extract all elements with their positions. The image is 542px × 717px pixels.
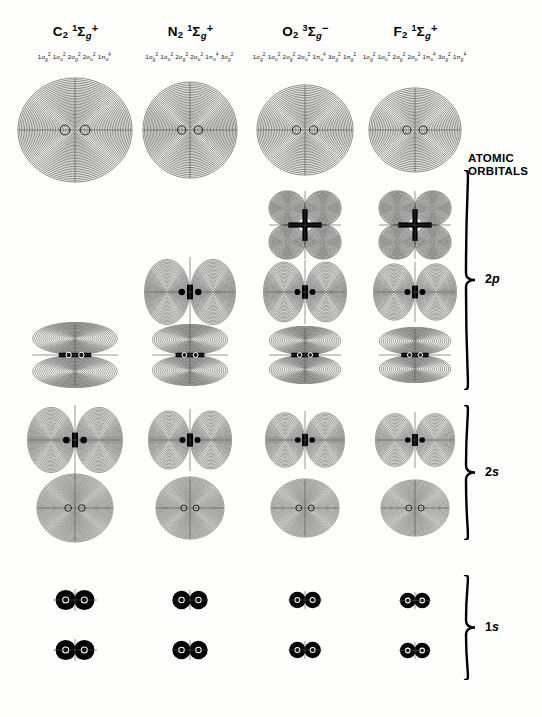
orbital-diagram-f2-row8 (399, 642, 431, 659)
term-symbol-c2: 1Σg+ (72, 24, 98, 39)
orbital-diagram-c2-row7 (53, 589, 97, 611)
orbital-diagram-o2-row5 (265, 409, 345, 471)
orbital-diagram-o2-row6 (269, 477, 341, 539)
term-sigma: Σ (77, 24, 85, 39)
element-symbol: N (168, 24, 178, 39)
config-orbital: 2σg2 (68, 53, 81, 60)
orbital-diagram-f2-row6 (379, 478, 451, 538)
brace-label-1s: 1s (485, 620, 499, 634)
orbital-diagram-n2-row7 (172, 590, 208, 610)
orbital-diagram-grid (0, 85, 460, 705)
orbital-diagram-f2-row5 (375, 410, 455, 470)
orbital-diagram-n2-row5 (148, 407, 232, 473)
species-label-c2: C21Σg+ (18, 22, 133, 41)
config-orbital: 3σg2 (438, 53, 451, 60)
config-orbital: 2σu2 (408, 53, 421, 60)
brace-1s (462, 575, 478, 680)
orbital-diagram-c2-row1 (16, 76, 134, 184)
orbital-diagram-f2-row3 (373, 260, 457, 324)
element-symbol: C (53, 24, 63, 39)
term-sigma: Σ (192, 24, 200, 39)
orbital-diagram-n2-row4 (150, 324, 230, 386)
atom-count: 2 (63, 29, 68, 40)
term-symbol-n2: 1Σg+ (187, 24, 213, 39)
config-orbital: 1πu4 (98, 53, 111, 60)
brace-2s (462, 405, 478, 540)
atom-count: 2 (402, 29, 407, 40)
term-sigma: Σ (417, 24, 425, 39)
term-sigma: Σ (308, 24, 316, 39)
orbital-diagram-c2-row5 (27, 403, 123, 477)
electron-configuration-f2: 1σg21σu22σg22σu21πu43σg21πg4 (358, 52, 473, 62)
term-symbol-o2: 3Σg− (303, 24, 329, 39)
term-symbol-f2: 1Σg+ (411, 24, 437, 39)
side-annotations: ATOMIC ORBITALS 2p2s1s (460, 0, 542, 717)
orbital-diagram-o2-row7 (288, 591, 322, 609)
orbital-diagram-c2-row8 (53, 639, 97, 661)
config-orbital: 1σu2 (160, 53, 173, 60)
orbital-diagram-o2-row2 (267, 189, 343, 261)
config-orbital: 1πg2 (343, 53, 356, 60)
term-reflection-sign: − (322, 22, 329, 34)
orbital-diagram-c2-row6 (35, 472, 115, 544)
figure-sheet: C21Σg+1σg21σu22σg22σu21πu4N21Σg+1σg21σu2… (0, 0, 542, 717)
column-header-o2: O23Σg−1σg21σu22σg22σu21πu43σg21πg2 (248, 22, 363, 62)
atomic-orbitals-line1: ATOMIC (468, 152, 542, 165)
electron-configuration-o2: 1σg21σu22σg22σu21πu43σg21πg2 (248, 52, 363, 62)
config-orbital: 1σu2 (378, 53, 391, 60)
config-orbital: 2σg2 (393, 53, 406, 60)
term-reflection-sign: + (207, 22, 214, 34)
species-label-o2: O23Σg− (248, 22, 363, 41)
column-header-n2: N21Σg+1σg21σu22σg22σu21πu43σg2 (133, 22, 248, 62)
orbital-diagram-o2-row4 (267, 326, 343, 384)
brace-label-2s: 2s (485, 465, 499, 479)
orbital-diagram-f2-row1 (367, 86, 463, 174)
orbital-diagram-f2-row7 (399, 592, 431, 609)
orbital-diagram-c2-row4 (30, 322, 120, 388)
config-orbital: 2σu2 (83, 53, 96, 60)
config-orbital: 1σu2 (268, 53, 281, 60)
config-orbital: 1σg2 (253, 53, 266, 60)
orbital-diagram-n2-row1 (141, 80, 239, 180)
orbital-diagram-o2-row1 (255, 83, 355, 177)
electron-configuration-n2: 1σg21σu22σg22σu21πu43σg2 (133, 52, 248, 62)
brace-2p (462, 170, 478, 390)
config-orbital: 1πu4 (205, 53, 218, 60)
config-orbital: 1σg2 (363, 53, 376, 60)
orbital-diagram-n2-row6 (154, 475, 226, 541)
config-orbital: 1σg2 (145, 53, 158, 60)
config-orbital: 2σg2 (175, 53, 188, 60)
species-label-n2: N21Σg+ (133, 22, 248, 41)
term-reflection-sign: + (92, 22, 99, 34)
orbital-diagram-f2-row4 (377, 327, 453, 383)
orbital-diagram-n2-row3 (144, 255, 236, 329)
config-orbital: 1πu4 (313, 53, 326, 60)
config-orbital: 1σg2 (38, 53, 51, 60)
atom-count: 2 (178, 29, 183, 40)
config-orbital: 1πu4 (423, 53, 436, 60)
orbital-diagram-o2-row3 (263, 258, 347, 326)
config-orbital: 1σu2 (53, 53, 66, 60)
orbital-diagram-n2-row8 (172, 640, 208, 660)
config-orbital: 3σg2 (328, 53, 341, 60)
electron-configuration-c2: 1σg21σu22σg22σu21πu4 (18, 52, 133, 62)
atomic-orbitals-line2: ORBITALS (468, 165, 542, 178)
term-reflection-sign: + (431, 22, 438, 34)
column-header-f2: F21Σg+1σg21σu22σg22σu21πu43σg21πg4 (358, 22, 473, 62)
config-orbital: 2σu2 (298, 53, 311, 60)
column-header-c2: C21Σg+1σg21σu22σg22σu21πu4 (18, 22, 133, 62)
element-symbol: F (393, 24, 401, 39)
config-orbital: 2σu2 (190, 53, 203, 60)
element-symbol: O (282, 24, 293, 39)
config-orbital: 3σg2 (221, 53, 234, 60)
config-orbital: 2σg2 (283, 53, 296, 60)
brace-label-2p: 2p (485, 272, 500, 286)
orbital-diagram-o2-row8 (288, 641, 322, 659)
atom-count: 2 (293, 29, 298, 40)
species-label-f2: F21Σg+ (358, 22, 473, 41)
orbital-diagram-f2-row2 (377, 189, 453, 261)
column-headers: C21Σg+1σg21σu22σg22σu21πu4N21Σg+1σg21σu2… (0, 0, 460, 85)
atomic-orbitals-label: ATOMIC ORBITALS (468, 152, 542, 178)
